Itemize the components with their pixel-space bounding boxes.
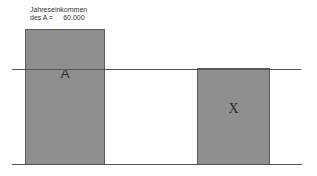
annotation-line1: Jahreseinkommen — [30, 6, 87, 13]
annotation-line2-prefix: des A = — [30, 14, 53, 21]
bar-a: A — [25, 29, 105, 165]
income-annotation: Jahreseinkommen des A =60.000 — [30, 6, 87, 22]
baseline — [12, 164, 302, 165]
reference-line — [12, 69, 301, 70]
bar-x: X — [197, 68, 270, 165]
annotation-line2-value: 60.000 — [63, 14, 84, 21]
bar-x-label: X — [198, 101, 269, 117]
